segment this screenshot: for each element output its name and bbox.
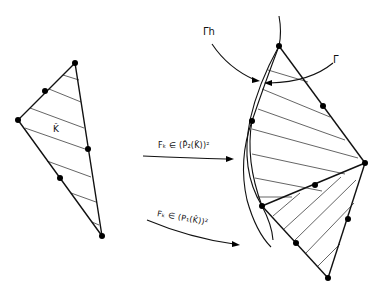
node-dot xyxy=(276,43,282,49)
quadratic-map-arrow xyxy=(143,156,226,159)
reference-triangle xyxy=(15,60,105,239)
arrowhead-icon xyxy=(264,80,272,86)
node-dot xyxy=(249,118,255,124)
gamma-h-label: Γh xyxy=(203,26,215,37)
quadratic-map-label: Fₖ ∈ (P̂₂(K̂))² xyxy=(158,141,210,150)
upper-hatching xyxy=(252,70,358,197)
node-dot xyxy=(42,88,48,94)
node-dot xyxy=(362,160,368,166)
node-dot xyxy=(320,103,326,109)
gamma-boundary-curve xyxy=(279,16,281,46)
mapped-element xyxy=(212,16,368,281)
arrowhead-icon xyxy=(252,77,260,83)
reference-nodes xyxy=(15,60,105,239)
gamma-label: Γ xyxy=(333,54,339,65)
node-dot xyxy=(293,240,299,246)
arrowhead-icon xyxy=(226,156,234,162)
node-dot xyxy=(312,182,318,188)
node-dot xyxy=(259,203,265,209)
node-dot xyxy=(57,175,63,181)
lower-hatching xyxy=(273,177,356,266)
node-dot xyxy=(345,216,351,222)
node-dot xyxy=(72,60,78,66)
node-dot xyxy=(85,146,91,152)
gamma-h-pointer xyxy=(212,44,255,80)
mapping-arrows xyxy=(143,156,240,247)
arrowhead-icon xyxy=(232,241,240,247)
node-dot xyxy=(99,233,105,239)
reference-element-label: K̂ xyxy=(53,124,59,134)
node-dot xyxy=(15,117,21,123)
node-dot xyxy=(325,275,331,281)
